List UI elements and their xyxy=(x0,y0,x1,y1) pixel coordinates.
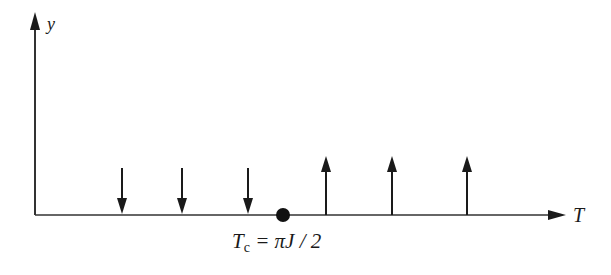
up-arrowhead-3 xyxy=(462,156,472,172)
up-arrowhead-2 xyxy=(387,156,397,172)
arrows-above-tc xyxy=(321,156,472,215)
down-arrowhead-3 xyxy=(243,198,253,214)
arrows-below-tc xyxy=(117,168,253,214)
down-arrowhead-1 xyxy=(117,198,127,214)
critical-point-dot xyxy=(276,208,290,222)
x-axis-label: T xyxy=(573,204,586,226)
up-arrowhead-1 xyxy=(321,156,331,172)
x-axis-arrowhead xyxy=(548,210,566,220)
y-axis-label: y xyxy=(45,14,55,34)
tc-value: = πJ / 2 xyxy=(250,229,322,253)
y-axis-arrowhead xyxy=(30,12,40,30)
down-arrowhead-2 xyxy=(177,198,187,214)
flow-diagram: y T Tc = πJ / 2 xyxy=(0,0,611,275)
critical-temperature-label: Tc = πJ / 2 xyxy=(232,229,322,255)
